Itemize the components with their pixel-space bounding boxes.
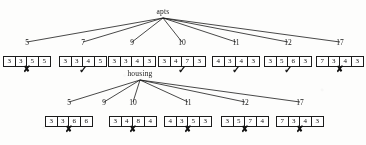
node-value-cell: 3 (265, 57, 277, 66)
node-value-cell: 3 (194, 57, 205, 66)
check-icon: ✓ (178, 65, 186, 74)
node-value-cell: 3 (144, 57, 155, 66)
check-icon: ✓ (232, 65, 240, 74)
node-value-cell: 3 (159, 57, 171, 66)
check-icon: ✓ (284, 65, 292, 74)
node-value-cell: 3 (352, 57, 363, 66)
node-number-label: 17 (296, 98, 304, 107)
node-number-label: 11 (232, 38, 239, 47)
node-value-cell: 3 (60, 57, 72, 66)
tree-edge (163, 18, 340, 42)
node-value-cell: 3 (46, 117, 58, 126)
node-number-label: 12 (241, 98, 249, 107)
node-value-cell: 3 (222, 117, 234, 126)
node-number-label: 12 (284, 38, 292, 47)
node-number-label: 9 (130, 38, 134, 47)
node-number-label: 11 (184, 98, 191, 107)
node-value-cell: 3 (109, 57, 121, 66)
node-value-cell: 5 (95, 57, 106, 66)
node-value-cell: 3 (248, 57, 259, 66)
node-value-cell: 5 (39, 57, 50, 66)
node-number-label: 10 (129, 98, 137, 107)
node-value-cell: 3 (110, 117, 122, 126)
node-value-cell: 4 (257, 117, 268, 126)
node-value-cell: 3 (200, 117, 211, 126)
tree-root-label-housing: housing (127, 69, 152, 78)
node-number-label: 5 (25, 38, 29, 47)
cross-icon: ✘ (23, 65, 31, 74)
cross-icon: ✘ (129, 125, 137, 134)
check-icon: ✓ (79, 65, 87, 74)
node-value-box: 3343 (108, 56, 156, 67)
tree-diagram-figure: aptshousing53355✘73345✓93343103473✓11434… (0, 0, 366, 145)
node-number-label: 9 (102, 98, 106, 107)
node-number-label: 17 (336, 38, 344, 47)
cross-icon: ✘ (65, 125, 73, 134)
tree-edge (140, 80, 245, 102)
cross-icon: ✘ (241, 125, 249, 134)
cross-icon: ✘ (296, 125, 304, 134)
cross-icon: ✘ (336, 65, 344, 74)
node-value-cell: 7 (277, 117, 289, 126)
node-value-cell: 3 (4, 57, 16, 66)
node-value-cell: 4 (145, 117, 156, 126)
tree-edge (132, 18, 163, 42)
node-value-cell: 4 (213, 57, 225, 66)
tree-root-label-apts: apts (157, 7, 170, 16)
node-value-cell: 6 (81, 117, 92, 126)
node-value-cell: 3 (300, 57, 311, 66)
node-value-cell: 7 (317, 57, 329, 66)
node-number-label: 5 (67, 98, 71, 107)
node-value-cell: 4 (132, 57, 144, 66)
node-value-cell: 3 (312, 117, 323, 126)
node-number-label: 10 (178, 38, 186, 47)
node-number-label: 7 (81, 38, 85, 47)
node-value-cell: 4 (165, 117, 177, 126)
node-value-cell: 3 (121, 57, 133, 66)
cross-icon: ✘ (184, 125, 192, 134)
